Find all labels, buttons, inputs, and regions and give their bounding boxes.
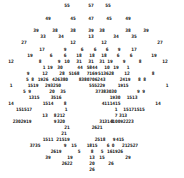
- node-label: 14: [155, 101, 160, 106]
- number-tree-diagram: 5557554945474549393838393838393334133435…: [0, 0, 184, 178]
- node-label: 212527: [122, 143, 138, 148]
- node-label: 20: [89, 161, 94, 166]
- node-label: 38: [99, 28, 104, 33]
- node-label: 9: [64, 47, 67, 52]
- node-label: 12: [42, 71, 47, 76]
- node-label: 2622: [62, 161, 73, 166]
- node-label: 28: [59, 71, 64, 76]
- node-label: 15: [99, 155, 104, 160]
- node-label: 1514: [43, 101, 54, 106]
- node-label: 19: [151, 53, 156, 58]
- node-label: 1315: [29, 95, 40, 100]
- node-label: 2419: [120, 77, 131, 82]
- node-label: 21: [61, 131, 66, 136]
- node-label: 17: [131, 47, 136, 52]
- node-label: 6: [117, 53, 120, 58]
- node-label: 57: [88, 3, 93, 8]
- node-label: 18: [101, 53, 106, 58]
- node-label: 35: [60, 89, 65, 94]
- node-label: 1: [166, 83, 169, 88]
- node-label: 21519: [56, 137, 69, 142]
- node-label: 1519: [28, 83, 39, 88]
- node-label: 5: [78, 149, 81, 154]
- node-label: 19: [27, 53, 32, 58]
- node-label: 12: [70, 40, 75, 45]
- node-label: 6: [64, 53, 67, 58]
- node-label: 1926: [38, 77, 49, 82]
- node-label: 6: [106, 47, 109, 52]
- node-label: 29: [125, 155, 130, 160]
- node-label: 12: [124, 71, 129, 76]
- node-label: 9: [27, 71, 30, 76]
- node-label: 2621: [92, 125, 103, 130]
- node-label: 1: [43, 65, 46, 70]
- node-label: 39: [45, 155, 50, 160]
- node-label: 12: [101, 40, 106, 45]
- node-label: 19: [113, 65, 118, 70]
- node-label: 426380: [52, 77, 68, 82]
- node-label: 9: [113, 137, 116, 142]
- node-label: 293250: [45, 83, 61, 88]
- node-label: 21: [64, 125, 69, 130]
- node-label: 19: [47, 65, 52, 70]
- node-label: 4111415: [102, 101, 121, 106]
- node-label: 8: [64, 101, 67, 106]
- node-label: 212: [57, 113, 65, 118]
- node-label: 1513: [127, 95, 138, 100]
- node-label: 9: [64, 143, 67, 148]
- node-label: 31: [76, 59, 81, 64]
- node-label: 10: [104, 65, 109, 70]
- node-label: 5: [101, 149, 104, 154]
- node-label: 1: [115, 107, 118, 112]
- node-label: 34: [113, 34, 118, 39]
- node-label: 31: [88, 59, 93, 64]
- node-label: 37383030: [95, 89, 116, 94]
- node-label: 12: [8, 59, 13, 64]
- node-label: 6: [50, 53, 53, 58]
- node-label: 1: [127, 65, 130, 70]
- node-label: 161926: [107, 149, 123, 154]
- node-label: 1930: [110, 95, 121, 100]
- node-label: 0: [112, 143, 115, 148]
- node-label: 9: [118, 47, 121, 52]
- node-label: 1915: [118, 83, 129, 88]
- node-label: 31: [99, 59, 104, 64]
- node-label: 8: [91, 149, 94, 154]
- node-label: 38: [52, 28, 57, 33]
- node-label: 6: [94, 47, 97, 52]
- node-label: 45: [106, 16, 111, 21]
- node-label: 151517: [16, 107, 32, 112]
- node-label: 39: [88, 28, 93, 33]
- node-label: 15: [71, 143, 76, 148]
- node-label: 513628: [98, 71, 114, 76]
- node-label: 14: [8, 101, 13, 106]
- node-label: 31410092223: [104, 119, 133, 124]
- node-label: 19: [67, 155, 72, 160]
- node-label: 27: [157, 40, 162, 45]
- node-label: 30: [57, 65, 62, 70]
- node-label: 8380706243: [79, 77, 106, 82]
- node-label: 13: [89, 155, 94, 160]
- node-label: 5 9: [23, 89, 31, 94]
- node-label: 20: [49, 89, 54, 94]
- node-label: 5844: [87, 65, 98, 70]
- node-label: 13: [88, 34, 93, 39]
- node-label: 47: [88, 16, 93, 21]
- node-label: 1: [65, 107, 68, 112]
- node-label: 12: [162, 59, 167, 64]
- node-label: 8: [39, 59, 42, 64]
- node-label: 55: [64, 3, 69, 8]
- node-label: 6: [130, 53, 133, 58]
- node-label: 5 8: [26, 77, 34, 82]
- node-label: 27: [21, 40, 26, 45]
- node-label: 8 8: [138, 77, 146, 82]
- node-label: 18: [76, 53, 81, 58]
- node-label: 34: [58, 34, 63, 39]
- node-label: 8: [139, 59, 142, 64]
- node-label: 39: [143, 28, 148, 33]
- node-label: 2518: [95, 137, 106, 142]
- node-label: 2619: [51, 149, 62, 154]
- node-label: 9: [123, 59, 126, 64]
- node-label: 8: [152, 71, 155, 76]
- node-label: 39: [33, 28, 38, 33]
